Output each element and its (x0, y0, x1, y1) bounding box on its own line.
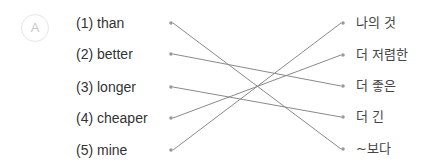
right-dot[interactable] (341, 115, 345, 119)
right-dot[interactable] (341, 53, 345, 57)
left-dot[interactable] (169, 116, 173, 120)
connector-line (173, 87, 341, 117)
left-dot[interactable] (169, 52, 173, 56)
matching-lines (0, 0, 434, 167)
right-dot[interactable] (341, 84, 345, 88)
connector-line (173, 54, 341, 86)
left-dot[interactable] (169, 21, 173, 25)
right-dot[interactable] (341, 21, 345, 25)
left-dot[interactable] (169, 85, 173, 89)
left-dot[interactable] (169, 148, 173, 152)
right-dot[interactable] (341, 147, 345, 151)
